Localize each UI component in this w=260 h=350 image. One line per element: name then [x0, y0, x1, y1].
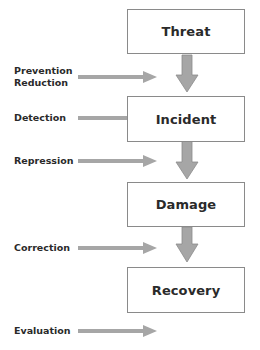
stage-box-damage: Damage	[127, 182, 245, 227]
stage-box-incident: Incident	[127, 96, 245, 142]
measure-label-prevention-reduction: Prevention Reduction	[14, 65, 73, 89]
stage-box-threat: Threat	[127, 9, 245, 54]
down-arrow-threat-incident	[176, 55, 198, 92]
right-arrow-prevention	[78, 71, 157, 83]
stage-box-recovery: Recovery	[127, 267, 245, 313]
measure-label-detection: Detection	[14, 112, 66, 124]
measure-label-correction: Correction	[14, 242, 70, 254]
measure-label-repression: Repression	[14, 155, 74, 167]
stage-label-damage: Damage	[156, 197, 217, 212]
right-arrow-repression	[78, 155, 157, 167]
down-arrow-incident-damage	[176, 141, 198, 179]
right-arrow-evaluation	[78, 325, 157, 337]
right-arrow-correction	[78, 242, 157, 254]
measure-label-evaluation: Evaluation	[14, 325, 71, 337]
stage-label-recovery: Recovery	[152, 283, 220, 298]
stage-label-threat: Threat	[162, 24, 211, 39]
down-arrow-damage-recovery	[176, 227, 198, 262]
stage-label-incident: Incident	[156, 112, 217, 127]
